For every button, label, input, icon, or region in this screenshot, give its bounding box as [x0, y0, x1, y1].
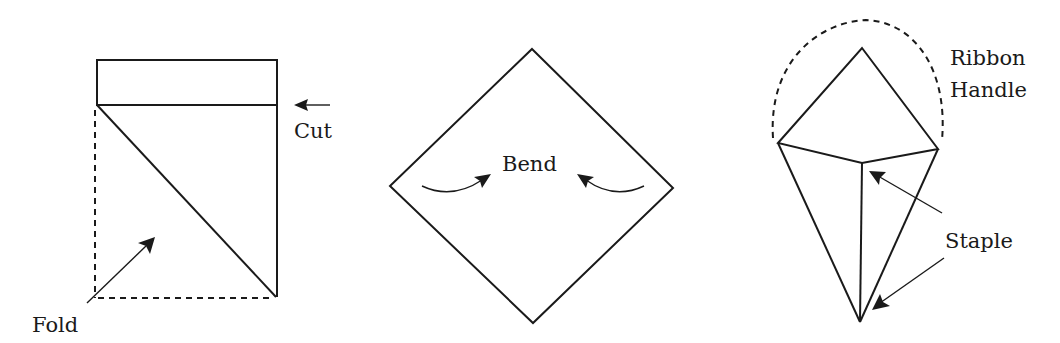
figure-cone: Ribbon Handle Staple — [773, 20, 1027, 322]
ribbon-label: Ribbon — [950, 46, 1026, 70]
bend-arrow-right-shaft — [586, 180, 644, 192]
staple-label: Staple — [945, 229, 1013, 253]
staple-arrow-bottom-shaft — [880, 258, 944, 303]
bend-arrow-left-shaft — [422, 180, 482, 192]
figure-bend: Bend — [390, 49, 673, 323]
figure-fold-cut: Cut Fold — [32, 60, 333, 337]
cut-label: Cut — [294, 119, 333, 143]
cut-arrow-icon — [294, 99, 308, 111]
bend-arrow-left-icon — [474, 174, 491, 188]
cone-center-seam — [860, 163, 862, 322]
cut-strip — [97, 60, 277, 105]
fold-label: Fold — [32, 313, 78, 337]
cone-left-edge — [778, 143, 860, 322]
paper-cone-instructions-diagram: Cut Fold Bend Ribbon Handle Staple — [0, 0, 1060, 343]
staple-arrow-bottom-icon — [872, 294, 890, 310]
staple-arrow-top-icon — [869, 171, 886, 185]
cone-right-edge — [860, 149, 938, 322]
cone-top-flap — [778, 48, 938, 163]
diamond-square — [390, 49, 673, 323]
bend-label: Bend — [502, 152, 557, 176]
handle-label: Handle — [950, 78, 1027, 102]
bend-arrow-right-icon — [577, 174, 594, 188]
staple-arrow-top-shaft — [878, 176, 942, 213]
